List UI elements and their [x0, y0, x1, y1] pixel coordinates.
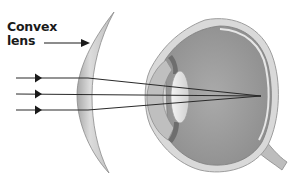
lens-label-line1: Convex	[7, 20, 57, 34]
arrow-icon	[35, 74, 42, 83]
lens-label-line2: lens	[7, 34, 57, 48]
crystalline-lens	[171, 71, 189, 123]
arrow-icon	[81, 39, 90, 47]
arrow-icon	[35, 90, 42, 99]
convex-lens	[77, 12, 114, 173]
arrow-icon	[35, 106, 42, 115]
lens-label: Convex lens	[7, 20, 57, 48]
ray-arrowheads	[35, 74, 42, 115]
